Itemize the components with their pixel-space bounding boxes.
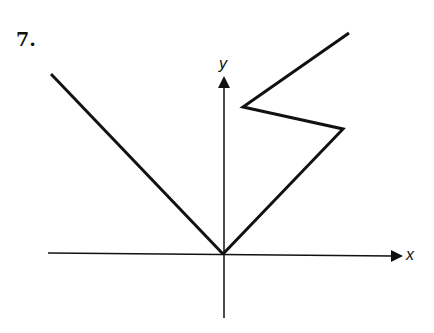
y-axis-label: y (219, 55, 227, 73)
left-ray (51, 74, 223, 254)
right-zigzag-path (223, 33, 349, 254)
y-axis-arrow-icon (218, 76, 230, 88)
graph-figure (0, 0, 434, 333)
x-axis-label: x (406, 246, 414, 264)
x-axis-arrow-icon (391, 250, 403, 262)
